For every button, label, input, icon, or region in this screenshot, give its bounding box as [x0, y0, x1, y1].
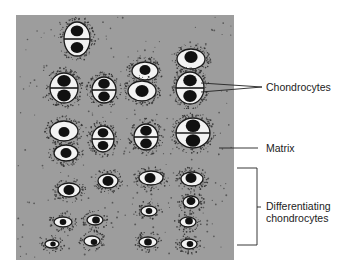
label-matrix: Matrix	[266, 142, 295, 154]
cartilage-illustration	[0, 0, 351, 269]
label-chondrocytes: Chondrocytes	[266, 81, 331, 93]
label-differentiating-line2: chondrocytes	[266, 212, 328, 224]
cartilage-diagram: Chondrocytes Matrix Differentiating chon…	[0, 0, 351, 269]
label-differentiating-line1: Differentiating	[266, 200, 331, 212]
